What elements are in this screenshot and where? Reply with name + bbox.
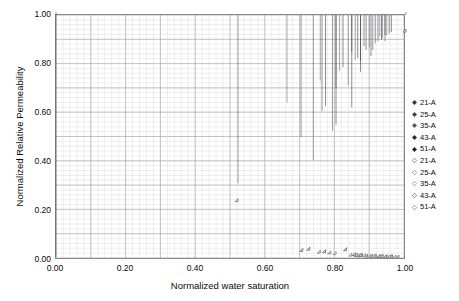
data-point: [307, 247, 310, 250]
legend-item[interactable]: 35-A: [411, 178, 436, 190]
legend-item[interactable]: 25-A: [411, 167, 436, 179]
data-point: [235, 199, 238, 202]
x-axis-title: Normalized water saturation: [55, 280, 405, 291]
y-tick-label: 0.40: [25, 156, 51, 166]
chart-legend: 21-A25-A35-A43-A51-A21-A25-A35-A43-A51-A: [411, 97, 436, 213]
y-tick-label: 1.00: [25, 9, 51, 19]
data-point: [328, 251, 331, 254]
legend-item[interactable]: 21-A: [411, 155, 436, 167]
x-tick-label: 0.80: [327, 263, 344, 273]
data-point: [323, 250, 326, 253]
open-diamond-icon: [411, 157, 418, 164]
data-points-layer: [56, 15, 404, 258]
legend-label: 35-A: [420, 122, 436, 130]
legend-item[interactable]: 25-A: [411, 109, 436, 121]
data-points-svg: [56, 15, 406, 260]
y-tick-label: 0.20: [25, 205, 51, 215]
open-diamond-icon: [411, 180, 418, 187]
legend-label: 43-A: [420, 134, 436, 142]
open-diamond-icon: [411, 192, 418, 199]
data-point: [317, 250, 320, 253]
legend-label: 25-A: [420, 111, 436, 119]
data-point: [362, 254, 365, 257]
x-tick-label: 0.20: [117, 263, 134, 273]
plot-area: [55, 14, 405, 259]
data-point: [333, 252, 336, 255]
data-point: [349, 253, 352, 256]
legend-item[interactable]: 21-A: [411, 97, 436, 109]
filled-diamond-icon: [411, 111, 418, 118]
legend-item[interactable]: 51-A: [411, 143, 436, 155]
data-point: [403, 29, 406, 32]
legend-label: 51-A: [420, 203, 436, 211]
data-point: [393, 255, 396, 258]
legend-item[interactable]: 35-A: [411, 120, 436, 132]
open-diamond-icon: [411, 169, 418, 176]
scatter-chart: 0.000.200.400.600.801.00 0.000.200.400.6…: [0, 0, 459, 301]
open-diamond-icon: [411, 204, 418, 211]
x-tick-label: 0.60: [257, 263, 274, 273]
legend-item[interactable]: 43-A: [411, 190, 436, 202]
y-axis-title: Normalized Relative Permeability: [14, 14, 25, 259]
legend-label: 51-A: [420, 145, 436, 153]
data-point: [300, 248, 303, 251]
x-tick-label: 0.40: [187, 263, 204, 273]
y-tick-label: 0.60: [25, 107, 51, 117]
data-point: [344, 248, 347, 251]
y-tick-label: 0.80: [25, 58, 51, 68]
legend-item[interactable]: 43-A: [411, 132, 436, 144]
legend-label: 35-A: [420, 180, 436, 188]
data-point: [352, 253, 355, 256]
y-tick-label: 0.00: [25, 254, 51, 264]
legend-label: 25-A: [420, 169, 436, 177]
filled-diamond-icon: [411, 122, 418, 129]
x-tick-label: 1.00: [397, 263, 414, 273]
filled-diamond-icon: [411, 146, 418, 153]
legend-label: 21-A: [420, 157, 436, 165]
filled-diamond-icon: [411, 99, 418, 106]
legend-item[interactable]: 51-A: [411, 201, 436, 213]
legend-label: 43-A: [420, 192, 436, 200]
filled-diamond-icon: [411, 134, 418, 141]
x-tick-label: 0.00: [47, 263, 64, 273]
legend-label: 21-A: [420, 99, 436, 107]
